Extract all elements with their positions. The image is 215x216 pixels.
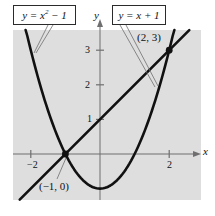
tick-label-x-2: 2 (167, 160, 172, 170)
graph-canvas (0, 0, 215, 216)
figure-container: y = x2 − 1 y = x + 1 (2, 3) (−1, 0) y x … (0, 0, 215, 216)
tick-label-y-2: 2 (85, 80, 90, 90)
point-marker-minus1-0 (62, 151, 69, 158)
point-label-2-3: (2, 3) (137, 32, 161, 43)
point-label-minus1-0: (−1, 0) (39, 181, 69, 192)
equation-label-parabola: y = x2 − 1 (13, 5, 76, 25)
plot-background (13, 30, 201, 200)
equation-label-line: y = x + 1 (112, 5, 166, 25)
tick-label-y-1: 1 (87, 114, 92, 124)
point-marker-2-3 (166, 47, 173, 54)
tick-label-x-minus2: −2 (27, 160, 38, 170)
axis-label-y: y (94, 10, 99, 21)
equation-label-parabola-text: y = x2 − 1 (22, 9, 67, 21)
tick-label-y-3: 3 (85, 45, 90, 55)
equation-label-line-text: y = x + 1 (118, 10, 159, 21)
axis-label-x: x (203, 146, 208, 157)
